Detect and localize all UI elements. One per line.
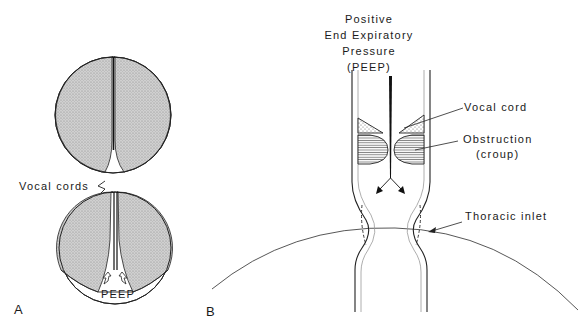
peep-title-line-3: Pressure bbox=[342, 45, 396, 57]
cropped-caption bbox=[0, 319, 583, 325]
peep-title-line-2: End Expiratory bbox=[325, 29, 414, 41]
glottis-peep: PEEP bbox=[56, 192, 172, 304]
thoracic-inlet-label: Thoracic inlet bbox=[465, 210, 547, 222]
airway-peep-diagram: Vocal cords PEEP A Positive End Expirato… bbox=[0, 0, 583, 325]
arrow-icon bbox=[428, 227, 436, 233]
peep-title-line-4: (PEEP) bbox=[347, 61, 391, 73]
obstruction-label-line-1: Obstruction bbox=[463, 133, 532, 145]
panel-a: Vocal cords PEEP A bbox=[14, 57, 173, 317]
panel-a-label: A bbox=[14, 302, 23, 317]
thoracic-inlet-curve bbox=[212, 228, 578, 310]
peep-label: PEEP bbox=[101, 288, 135, 300]
obstruction-label-line-2: (croup) bbox=[476, 148, 519, 160]
vocal-cord-label: Vocal cord bbox=[464, 101, 527, 113]
peep-title-line-1: Positive bbox=[345, 13, 393, 25]
panel-b: Positive End Expiratory Pressure (PEEP) bbox=[206, 13, 578, 319]
pressure-indicator bbox=[376, 76, 405, 194]
panel-b-label: B bbox=[206, 304, 215, 319]
vocal-cords-label: Vocal cords bbox=[19, 180, 89, 192]
glottis-closed bbox=[55, 57, 171, 173]
